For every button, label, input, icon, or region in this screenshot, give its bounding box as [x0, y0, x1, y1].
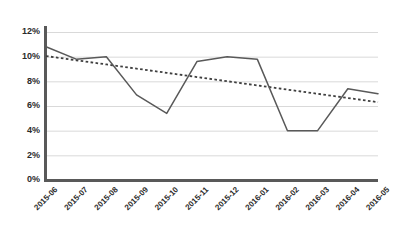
line-chart: 0%2%4%6%8%10%12% 2015-062015-072015-0820… [0, 0, 397, 230]
y-axis-tick-label: 6% [27, 100, 40, 110]
y-axis-tick-label: 2% [27, 150, 40, 160]
y-axis-tick-label: 10% [22, 51, 40, 61]
y-axis-tick-label: 8% [27, 76, 40, 86]
y-axis-tick-label: 12% [22, 26, 40, 36]
chart-canvas: 0%2%4%6%8%10%12% 2015-062015-072015-0820… [0, 0, 397, 230]
y-axis-tick-label: 0% [27, 174, 40, 184]
y-axis-tick-label: 4% [27, 125, 40, 135]
